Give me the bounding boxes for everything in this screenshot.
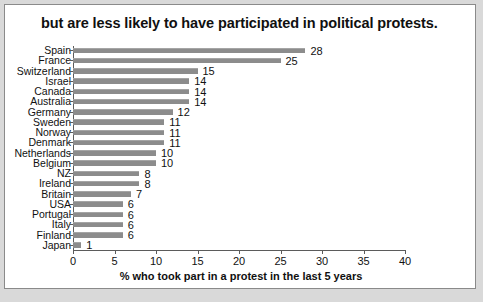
bar [73, 89, 189, 95]
x-axis-tick [198, 250, 199, 254]
bar-row: Finland6 [5, 231, 477, 242]
bar-row: France25 [5, 56, 477, 67]
bar-row: Canada14 [5, 87, 477, 98]
bar [73, 58, 281, 64]
bar-value-label: 8 [144, 178, 150, 190]
x-axis-tick [239, 250, 240, 254]
bar-row: Italy6 [5, 220, 477, 231]
bar-value-label: 1 [86, 239, 92, 251]
bar [73, 130, 164, 136]
bar [73, 212, 123, 218]
bar [73, 99, 189, 105]
bar-row: Britain7 [5, 190, 477, 201]
bar [73, 48, 305, 54]
bar [73, 160, 156, 166]
x-axis-tick [364, 250, 365, 254]
bar-row: Israel14 [5, 77, 477, 88]
bar-value-label: 28 [310, 45, 322, 57]
bar-row: Germany12 [5, 108, 477, 119]
bar [73, 242, 81, 248]
bar-value-label: 25 [286, 55, 298, 67]
bar-row: Sweden11 [5, 118, 477, 129]
x-axis-tick-label: 25 [274, 255, 286, 267]
bar [73, 232, 123, 238]
plot-area: Spain28France25Switzerland15Israel14Cana… [5, 5, 477, 290]
x-axis-tick-label: 15 [191, 255, 203, 267]
bar-row: Japan1 [5, 241, 477, 252]
x-axis-label: % who took part in a protest in the last… [5, 270, 477, 282]
bar-row: Australia14 [5, 97, 477, 108]
bar-row: USA6 [5, 200, 477, 211]
bar-row: Switzerland15 [5, 67, 477, 78]
bar-row: Ireland8 [5, 179, 477, 190]
x-axis-tick-label: 40 [399, 255, 411, 267]
x-axis-tick-label: 35 [357, 255, 369, 267]
bar-row: Spain28 [5, 46, 477, 57]
bar-value-label: 14 [194, 96, 206, 108]
x-axis-tick [115, 250, 116, 254]
bar-row: Denmark11 [5, 138, 477, 149]
bar [73, 78, 189, 84]
x-axis-tick [322, 250, 323, 254]
bar [73, 119, 164, 125]
bar-row: Portugal6 [5, 210, 477, 221]
bar [73, 171, 139, 177]
x-axis-tick-label: 5 [111, 255, 117, 267]
x-axis-tick [281, 250, 282, 254]
bar-value-label: 7 [136, 188, 142, 200]
bar [73, 68, 198, 74]
bar [73, 222, 123, 228]
bar-value-label: 6 [128, 229, 134, 241]
bar [73, 191, 131, 197]
category-label: Japan [42, 240, 71, 251]
x-axis-tick-label: 20 [233, 255, 245, 267]
bar-value-label: 10 [161, 157, 173, 169]
bar [73, 181, 139, 187]
x-axis-tick-label: 10 [150, 255, 162, 267]
x-axis-tick [156, 250, 157, 254]
x-axis-tick [405, 250, 406, 254]
bar [73, 109, 173, 115]
bar [73, 140, 164, 146]
bar-row: Belgium10 [5, 159, 477, 170]
bar [73, 150, 156, 156]
bar-row: Norway11 [5, 128, 477, 139]
bar [73, 201, 123, 207]
bar-row: NZ8 [5, 169, 477, 180]
x-axis-tick [73, 250, 74, 254]
x-axis-tick-label: 0 [70, 255, 76, 267]
chart-figure: but are less likely to have participated… [4, 4, 476, 289]
bar-row: Netherlands10 [5, 149, 477, 160]
x-axis-tick-label: 30 [316, 255, 328, 267]
